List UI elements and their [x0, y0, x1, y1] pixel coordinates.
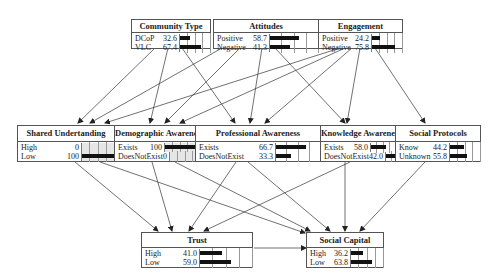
node-title: Professional Awareness	[196, 126, 320, 142]
state-label: High	[18, 143, 37, 152]
state-row[interactable]: DCoP 32.6	[132, 34, 210, 43]
belief-bar	[350, 258, 383, 267]
state-row[interactable]: DoesNotExist 33.3	[196, 152, 320, 161]
state-row[interactable]: Know 44.2	[396, 143, 480, 152]
state-label: DoesNotExist	[196, 152, 244, 161]
state-value: 33.3	[244, 152, 275, 161]
bar-gridline	[210, 42, 211, 53]
edge-social-protocols-social-capital	[360, 162, 425, 231]
state-row[interactable]: Positive 58.7	[214, 34, 318, 43]
belief-bar	[371, 43, 402, 52]
state-value: 59.0	[160, 258, 199, 267]
state-row[interactable]: Exists 58.0	[321, 143, 395, 152]
state-row[interactable]: DoesNotExist 0	[115, 152, 195, 161]
belief-bar-fill	[372, 36, 380, 40]
belief-bar-fill	[200, 260, 231, 264]
state-label: DCoP	[132, 34, 155, 43]
state-row[interactable]: Low 63.8	[307, 258, 383, 267]
edge-engagement-social-protocols	[375, 48, 425, 123]
node-title: Demographic Awareness	[115, 126, 195, 142]
state-row[interactable]: Positive 24.2	[319, 34, 402, 43]
state-label: Low	[307, 258, 325, 267]
state-value: 41.3	[246, 43, 269, 52]
bar-gridline	[306, 42, 307, 53]
edge-engagement-demographic	[180, 48, 345, 123]
bar-gridline	[309, 151, 310, 162]
edge-engagement-knowledge	[347, 48, 360, 123]
node-professional-awareness[interactable]: Professional Awareness Exists 66.7 DoesN…	[195, 125, 321, 162]
node-shared-understanding[interactable]: Shared Undertanding High 0 Low 100	[17, 125, 115, 162]
state-value: 100	[138, 143, 164, 152]
edge-demographic-social-capital	[175, 162, 310, 231]
state-value: 58.0	[344, 143, 370, 152]
belief-bar-fill	[372, 45, 395, 49]
state-label: High	[307, 249, 326, 258]
bar-gridline	[202, 42, 203, 53]
state-label: Positive	[214, 34, 243, 43]
state-label: DoesNotExist	[115, 152, 163, 161]
node-attitudes[interactable]: Attitudes Positive 58.7 Negative 41.3	[213, 19, 319, 49]
belief-bar-fill	[276, 154, 291, 158]
state-row[interactable]: VLC 67.4	[132, 43, 210, 52]
state-value: 42.0	[369, 152, 385, 161]
edge-community-shared	[78, 48, 155, 123]
state-row[interactable]: Negative 41.3	[214, 43, 318, 52]
belief-bar-fill	[351, 251, 363, 255]
bar-gridline	[294, 42, 295, 53]
belief-bar-fill	[165, 145, 196, 149]
edge-shared-social-capital	[100, 162, 305, 233]
state-row[interactable]: DoesNotExist 42.0	[321, 152, 395, 161]
node-engagement[interactable]: Engagement Positive 24.2 Negative 75.8	[318, 19, 403, 49]
node-knowledge-awareness[interactable]: Knowledge Awareness Exists 58.0 DoesNotE…	[320, 125, 396, 162]
edge-professional-social-capital	[248, 162, 330, 231]
state-value: 67.4	[151, 43, 179, 52]
edge-attitudes-demographic	[165, 48, 240, 123]
state-row[interactable]: High 41.0	[142, 249, 252, 258]
state-label: Know	[396, 143, 419, 152]
belief-bar-fill	[200, 251, 222, 255]
bar-gridline	[383, 257, 384, 268]
state-row[interactable]: Low 59.0	[142, 258, 252, 267]
belief-bar-fill	[371, 145, 386, 149]
node-social-protocols[interactable]: Social Protocols Know 44.2 Unknown 55.8	[395, 125, 481, 162]
node-title: Knowledge Awareness	[321, 126, 395, 142]
edge-attitudes-shared	[90, 48, 222, 123]
belief-bar-fill	[180, 45, 201, 49]
belief-bar-fill	[450, 145, 464, 149]
state-label: Exists	[115, 143, 138, 152]
node-trust[interactable]: Trust High 41.0 Low 59.0	[141, 232, 253, 268]
edge-attitudes-professional	[250, 48, 262, 123]
state-row[interactable]: Low 100	[18, 152, 114, 161]
bar-gridline	[185, 151, 186, 162]
node-title: Community Type	[132, 20, 210, 33]
bar-gridline	[375, 257, 376, 268]
bar-gridline	[402, 42, 403, 53]
node-title: Attitudes	[214, 20, 318, 33]
belief-bar-fill	[270, 45, 290, 49]
state-row[interactable]: Exists 100	[115, 143, 195, 152]
edge-community-professional	[182, 48, 235, 123]
state-row[interactable]: Negative 75.8	[319, 43, 402, 52]
node-social-capital[interactable]: Social Capital High 36.2 Low 63.8	[306, 232, 384, 268]
belief-bar	[275, 152, 320, 161]
node-community-type[interactable]: Community Type DCoP 32.6 VLC 67.4	[131, 19, 211, 49]
belief-bar-fill	[450, 154, 467, 158]
belief-bar-fill	[270, 36, 299, 40]
belief-bar	[179, 43, 210, 52]
node-title: Engagement	[319, 20, 402, 33]
belief-bar-fill	[180, 36, 190, 40]
belief-bar-fill	[276, 145, 306, 149]
state-row[interactable]: Unknown 55.8	[396, 152, 480, 161]
state-row[interactable]: High 36.2	[307, 249, 383, 258]
edge-community-demographic	[150, 48, 168, 123]
state-row[interactable]: Exists 66.7	[196, 143, 320, 152]
belief-bar	[164, 143, 195, 152]
edge-shared-trust	[75, 162, 158, 231]
state-row[interactable]: High 0	[18, 143, 114, 152]
belief-bar	[449, 152, 480, 161]
edge-engagement-shared	[105, 48, 340, 123]
state-value: 58.7	[243, 34, 269, 43]
state-label: High	[142, 249, 161, 258]
node-demographic-awareness[interactable]: Demographic Awareness Exists 100 DoesNot…	[114, 125, 196, 162]
bar-gridline	[239, 257, 240, 268]
